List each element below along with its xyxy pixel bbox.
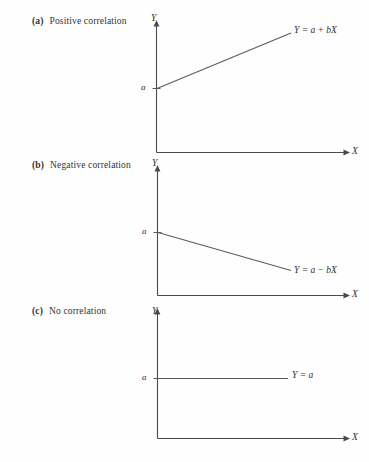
panel-c-intercept-label: a — [142, 372, 147, 382]
panel-a-regression-line — [157, 33, 291, 89]
panel-c-y-axis-label: Y — [152, 306, 157, 316]
panel-c-x-axis-label: X — [352, 432, 358, 442]
panel-b-svg — [0, 155, 369, 305]
panel-c-svg — [0, 300, 369, 462]
correlation-figure: (a)Positive correlation Y X a Y = a + bX… — [0, 0, 369, 462]
panel-b-plot — [0, 155, 369, 305]
panel-b-regression-line — [158, 233, 291, 271]
panel-c-x-axis-arrowhead — [344, 436, 351, 442]
panel-c-equation-label: Y = a — [292, 370, 313, 380]
panel-a-intercept-label: a — [141, 82, 146, 92]
panel-a-y-axis-label: Y — [151, 13, 156, 23]
panel-b-intercept-label: a — [142, 226, 147, 236]
panel-b-x-axis-label: X — [352, 289, 358, 299]
panel-a-equation-label: Y = a + bX — [294, 25, 337, 35]
panel-b-y-axis-label: Y — [152, 158, 157, 168]
panel-b-x-axis-arrowhead — [344, 293, 351, 299]
panel-b-equation-label: Y = a − bX — [294, 265, 337, 275]
panel-c-plot — [0, 300, 369, 462]
